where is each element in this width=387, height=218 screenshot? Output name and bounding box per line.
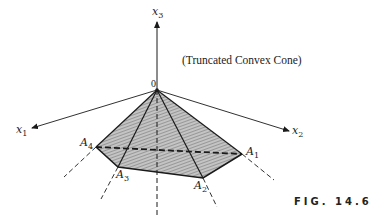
vertex-a4-label: A4 [79, 136, 93, 151]
figure-title: (Truncated Convex Cone) [182, 54, 302, 67]
truncated-convex-cone-diagram: 0 x3 x1 x2 A4 A3 A2 A1 (Truncated Convex… [0, 0, 387, 218]
x3-label: x3 [152, 5, 163, 20]
x1-label: x1 [16, 123, 27, 138]
origin-label: 0 [151, 78, 156, 89]
ray-extension-a4 [64, 147, 96, 177]
x2-label: x2 [292, 124, 303, 139]
figure-caption: FIG. 14.6 [294, 196, 372, 207]
cone-faces [96, 90, 242, 178]
vertex-a3-label: A3 [115, 168, 129, 183]
vertex-a1-label: A1 [245, 145, 259, 160]
